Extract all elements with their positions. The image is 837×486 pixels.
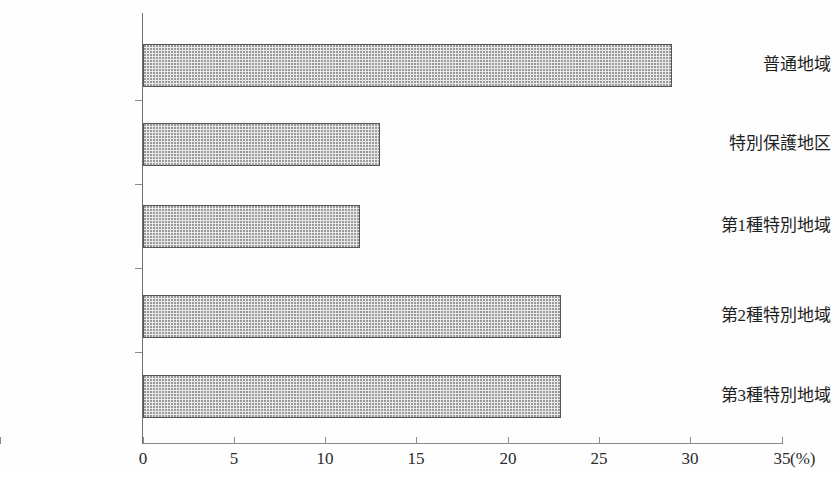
x-tick-label-10: 10	[317, 449, 334, 469]
x-tick-35	[782, 437, 783, 444]
x-axis-line	[143, 443, 783, 444]
y-tick-3	[135, 268, 143, 269]
y-tick-4	[135, 352, 143, 353]
x-tick-label-35: 35	[774, 449, 791, 469]
x-tick-label-30: 30	[682, 449, 699, 469]
scan-artifact-strip	[0, 472, 837, 486]
category-label-4: 第3種特別地域	[702, 386, 837, 406]
x-tick-15	[416, 437, 417, 444]
x-tick-10	[0, 437, 1, 444]
y-tick-1	[135, 100, 143, 101]
bar-3	[143, 295, 561, 338]
bar-1	[143, 123, 380, 166]
x-tick-0	[143, 437, 144, 444]
bar-4	[143, 375, 561, 418]
x-tick-label-20: 20	[500, 449, 517, 469]
x-tick-label-5: 5	[230, 449, 239, 469]
category-label-3: 第2種特別地域	[702, 306, 837, 326]
x-tick-30	[690, 437, 691, 444]
category-label-1: 特別保護地区	[702, 134, 837, 154]
x-tick-label-25: 25	[591, 449, 608, 469]
x-axis-unit-label: (%)	[790, 449, 815, 469]
y-tick-2	[135, 184, 143, 185]
bar-0	[143, 44, 672, 87]
x-tick-10b	[325, 437, 326, 444]
bar-chart: 0 5 10 15 20 25 30 35 (%) 普通地域 特別保護地区 第1…	[0, 0, 837, 486]
bar-2	[143, 205, 360, 248]
x-tick-25	[599, 437, 600, 444]
x-tick-5	[234, 437, 235, 444]
x-tick-label-0: 0	[139, 449, 148, 469]
category-label-0: 普通地域	[702, 55, 837, 75]
x-tick-label-15: 15	[408, 449, 425, 469]
category-label-2: 第1種特別地域	[702, 216, 837, 236]
x-tick-20	[508, 437, 509, 444]
